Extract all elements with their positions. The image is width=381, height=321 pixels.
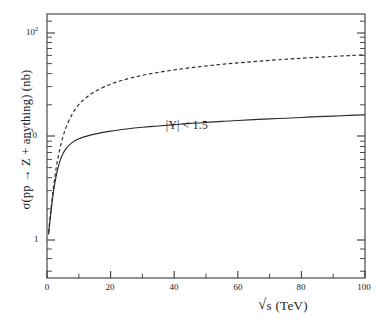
y-minor-ticks [47,21,365,271]
x-tick-label-100: 100 [357,283,371,292]
y-tick-label-1: 1 [34,235,39,244]
x-tick-label-60: 60 [234,283,243,292]
x-tick-label-0: 0 [45,283,50,292]
radical-icon: √ [258,296,267,313]
x-axis-title: √s (TeV) [258,297,308,314]
annotation-rapidity-cut: |Y| < 1.5 [166,119,208,131]
x-axis-title-text: s (TeV) [267,298,308,313]
x-tick-label-20: 20 [106,283,115,292]
plot-canvas [0,0,381,321]
figure-container: 102 10 1 0 20 40 60 80 100 √s (TeV) σ(pp… [0,0,381,321]
x-tick-label-80: 80 [297,283,306,292]
x-minor-ticks [79,274,333,279]
y-major-ticks [47,33,365,240]
curve-ycut-solid [49,115,365,235]
curve-total-dashed [49,55,365,233]
plot-frame [47,14,365,278]
x-tick-label-40: 40 [170,283,179,292]
y-axis-title: σ(pp → Z + anything) (nb) [19,20,34,260]
